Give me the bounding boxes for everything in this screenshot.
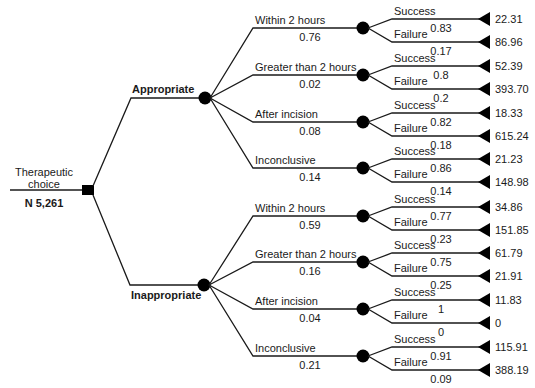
chance-node-icon — [357, 256, 370, 269]
sub-branch: Within 2 hours0.59Success0.7734.86Failur… — [209, 193, 529, 285]
outcome-value: 86.96 — [495, 36, 523, 48]
outcome-label: Failure — [394, 216, 428, 228]
branch-inappropriate: Inappropriate — [93, 195, 211, 301]
sub-branch-prob: 0.59 — [299, 219, 320, 231]
chance-node-icon — [357, 162, 370, 175]
terminal-node-triangle-icon — [478, 152, 490, 166]
outcome-value: 151.85 — [495, 224, 529, 236]
terminal-node-triangle-icon — [478, 340, 490, 354]
outcome-label: Failure — [394, 168, 428, 180]
outcome-value: 21.23 — [495, 153, 523, 165]
outcome-prob: 0.09 — [430, 373, 451, 385]
root-label-line1: Therapeutic — [15, 166, 74, 178]
branch-label: Appropriate — [132, 83, 194, 95]
outcome-value: 22.31 — [495, 13, 523, 25]
branch-label: Inappropriate — [131, 289, 201, 301]
outcome-label: Failure — [394, 309, 428, 321]
sub-branch-prob: 0.14 — [299, 171, 320, 183]
outcome-line — [368, 347, 480, 356]
outcome-label: Success — [394, 145, 436, 157]
outcome-prob: 0.8 — [433, 69, 448, 81]
sub-branch: After incision0.08Success0.8218.33Failur… — [210, 98, 529, 151]
sub-branch-label: Greater than 2 hours — [255, 61, 357, 73]
outcome-line — [368, 159, 480, 168]
sub-branch-label: After incision — [255, 108, 318, 120]
chance-node-icon — [357, 350, 370, 363]
sub-branch-line — [210, 75, 363, 98]
outcome-label: Success — [394, 52, 436, 64]
outcome-value: 115.91 — [495, 341, 528, 353]
outcome-value: 148.98 — [495, 176, 529, 188]
outcome-label: Success — [394, 286, 436, 298]
outcome-value: 393.70 — [495, 83, 529, 95]
outcome-prob: 0 — [438, 326, 444, 338]
terminal-node-triangle-icon — [478, 363, 490, 377]
outcome-value: 21.91 — [495, 270, 523, 282]
sub-branch-prob: 0.08 — [299, 125, 320, 137]
outcome-line — [368, 66, 480, 75]
decision-node-square-icon — [82, 185, 94, 195]
outcome-label: Failure — [394, 122, 428, 134]
terminal-node-triangle-icon — [478, 106, 490, 120]
outcome-label: Success — [394, 5, 436, 17]
sub-branch: After incision0.04Success111.83Failure00 — [209, 285, 522, 338]
outcome-value: 388.19 — [495, 364, 529, 376]
chance-node-icon — [198, 279, 211, 292]
sub-branch-prob: 0.16 — [299, 265, 320, 277]
sub-branch-label: Within 2 hours — [255, 14, 326, 26]
outcome-label: Success — [394, 99, 436, 111]
outcome-value: 61.79 — [495, 247, 523, 259]
outcome-prob: 0.77 — [430, 210, 451, 222]
outcome-label: Failure — [394, 262, 428, 274]
terminal-node-triangle-icon — [478, 223, 490, 237]
outcome-value: 34.86 — [495, 201, 523, 213]
chance-node-icon — [199, 92, 212, 105]
outcome-line — [368, 207, 480, 216]
terminal-node-triangle-icon — [478, 82, 490, 96]
sub-branch-prob: 0.76 — [299, 31, 320, 43]
chance-node-icon — [357, 210, 370, 223]
root-n-count: N 5,261 — [25, 197, 64, 209]
terminal-node-triangle-icon — [478, 316, 490, 330]
branch-appropriate: Appropriate — [93, 83, 212, 186]
terminal-node-triangle-icon — [478, 269, 490, 283]
terminal-node-triangle-icon — [478, 175, 490, 189]
sub-branch-prob: 0.02 — [299, 78, 320, 90]
outcome-line — [368, 300, 480, 309]
outcome-label: Success — [394, 239, 436, 251]
outcome-line — [368, 113, 480, 122]
outcome-line — [368, 253, 480, 262]
outcome-prob: 0.83 — [430, 22, 451, 34]
terminal-node-triangle-icon — [478, 59, 490, 73]
outcome-label: Success — [394, 333, 436, 345]
outcome-label: Success — [394, 193, 436, 205]
terminal-node-triangle-icon — [478, 35, 490, 49]
branch-line — [93, 195, 204, 285]
sub-branch-label: Inconclusive — [255, 154, 316, 166]
sub-branch: Greater than 2 hours0.02Success0.852.39F… — [210, 52, 529, 104]
terminal-node-triangle-icon — [478, 200, 490, 214]
chance-node-icon — [357, 303, 370, 316]
outcome-prob: 0.86 — [430, 162, 451, 174]
root-label-line2: choice — [28, 178, 60, 190]
sub-branch-prob: 0.21 — [299, 359, 320, 371]
branch-line — [93, 98, 205, 186]
outcome-prob: 0.75 — [430, 256, 451, 268]
terminal-node-triangle-icon — [478, 129, 490, 143]
terminal-node-triangle-icon — [478, 293, 490, 307]
sub-branch-label: After incision — [255, 295, 318, 307]
outcome-label: Failure — [394, 28, 428, 40]
root-node-group: Therapeutic choice N 5,261 — [10, 166, 94, 209]
terminal-node-triangle-icon — [478, 12, 490, 26]
outcome-value: 615.24 — [495, 130, 529, 142]
decision-tree: Therapeutic choice N 5,261 Appropriate I… — [0, 0, 535, 388]
outcome-label: Failure — [394, 75, 428, 87]
sub-branch-label: Within 2 hours — [255, 202, 326, 214]
chance-node-icon — [357, 69, 370, 82]
sub-branch-label: Inconclusive — [255, 342, 316, 354]
outcome-value: 18.33 — [495, 107, 523, 119]
terminal-node-triangle-icon — [478, 246, 490, 260]
sub-branch: Within 2 hours0.76Success0.8322.31Failur… — [210, 5, 523, 98]
sub-branch-line — [209, 262, 363, 285]
chance-node-icon — [357, 116, 370, 129]
